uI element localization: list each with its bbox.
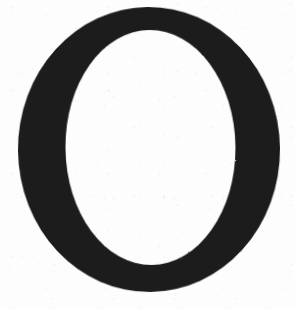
letter-glyph-layer	[0, 0, 295, 309]
letter-o-glyph	[0, 0, 295, 309]
letter-o-bowl	[17, 6, 282, 294]
scanned-page	[0, 0, 295, 309]
